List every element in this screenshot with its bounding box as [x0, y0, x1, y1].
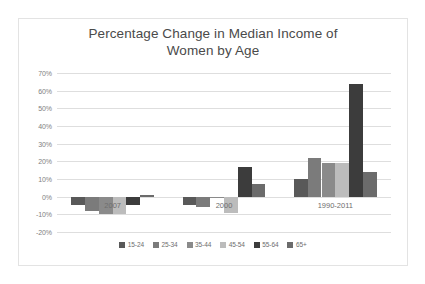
legend-swatch-icon: [287, 242, 293, 248]
bar-65+-2007: [140, 195, 154, 197]
legend-item-15-24[interactable]: 15-24: [119, 241, 144, 248]
legend-swatch-icon: [119, 242, 125, 248]
bar-15-24-2000: [183, 197, 197, 206]
bar-15-24-1990-2011: [294, 179, 308, 197]
y-axis-tick-label: -20%: [36, 229, 52, 236]
legend-item-55-64[interactable]: 55-64: [254, 241, 279, 248]
bar-25-34-1990-2011: [308, 158, 322, 197]
bar-55-64-2007: [126, 197, 140, 206]
bar-25-34-2007: [85, 197, 99, 211]
y-axis-tick-label: -10%: [36, 211, 52, 218]
legend-swatch-icon: [220, 242, 226, 248]
y-axis-tick-label: 20%: [38, 158, 52, 165]
legend-item-25-34[interactable]: 25-34: [153, 241, 178, 248]
plot-area: 70%60%50%40%30%20%10%0%-10%-20% 20072000…: [57, 73, 391, 232]
legend-label: 15-24: [128, 241, 144, 248]
bar-65+-2000: [252, 184, 266, 196]
legend-swatch-icon: [254, 242, 260, 248]
chart-frame: Percentage Change in Median Income of Wo…: [18, 18, 408, 266]
y-axis-tick-label: 30%: [38, 140, 52, 147]
y-axis-tick-label: 60%: [38, 87, 52, 94]
plot-wrapper: 70%60%50%40%30%20%10%0%-10%-20% 20072000…: [19, 19, 409, 267]
bar-45-54-1990-2011: [335, 163, 349, 197]
legend-label: 35-44: [195, 241, 211, 248]
y-axis-tick-label: 10%: [38, 176, 52, 183]
y-axis-tick-label: 0%: [42, 193, 52, 200]
legend-label: 45-54: [229, 241, 245, 248]
legend-label: 55-64: [262, 241, 278, 248]
legend-item-65+[interactable]: 65+: [287, 241, 306, 248]
x-axis-label-1990-2011: 1990-2011: [318, 201, 353, 210]
legend-swatch-icon: [153, 242, 159, 248]
legend-item-45-54[interactable]: 45-54: [220, 241, 245, 248]
y-axis-tick-label: 40%: [38, 123, 52, 130]
legend-item-35-44[interactable]: 35-44: [187, 241, 212, 248]
x-axis-label-2007: 2007: [104, 201, 121, 210]
legend-label: 65+: [296, 241, 307, 248]
bar-55-64-2000: [238, 167, 252, 197]
legend-label: 25-34: [161, 241, 177, 248]
y-axis-tick-label: 70%: [38, 70, 52, 77]
bar-55-64-1990-2011: [349, 84, 363, 197]
x-axis-label-2000: 2000: [216, 201, 233, 210]
bar-65+-1990-2011: [363, 172, 377, 197]
bar-35-44-2000: [210, 197, 224, 199]
chart-legend: 15-2425-3435-4445-5455-6465+: [19, 241, 407, 248]
bar-15-24-2007: [71, 197, 85, 206]
gridline: [57, 232, 391, 233]
legend-swatch-icon: [187, 242, 193, 248]
y-axis-tick-label: 50%: [38, 105, 52, 112]
bar-35-44-1990-2011: [322, 163, 336, 197]
bar-25-34-2000: [196, 197, 210, 208]
